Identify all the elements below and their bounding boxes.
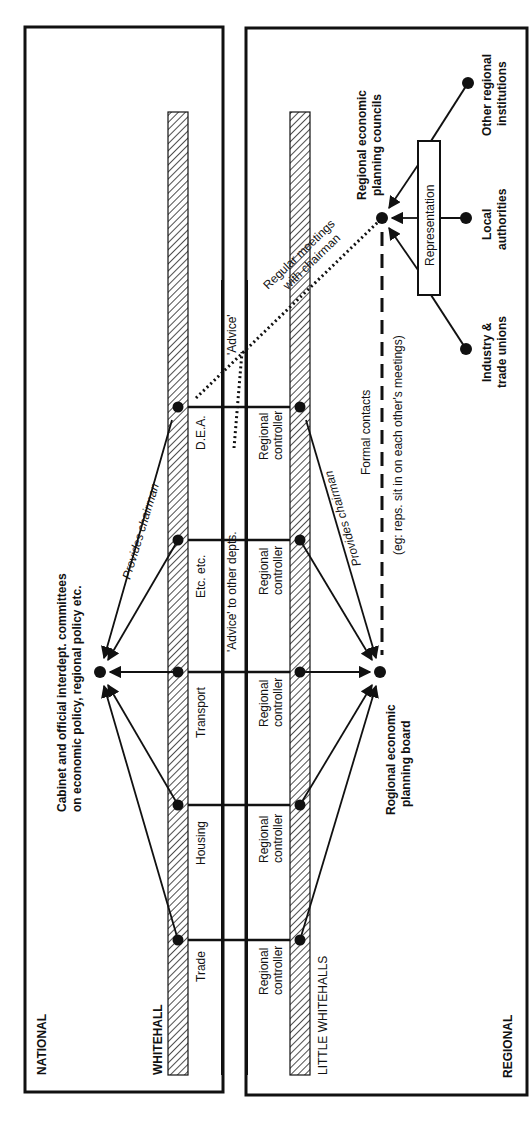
board-node	[374, 666, 386, 678]
little-whitehalls-label: LITTLE WHITEHALLS	[316, 956, 330, 1075]
councils-node	[376, 212, 388, 224]
board-label: Rogional economic planning board	[384, 704, 413, 815]
svg-text:trade unions: trade unions	[495, 316, 509, 388]
cabinet-label: Cabinet and official interdept. committe…	[55, 573, 84, 812]
svg-text:Regional: Regional	[257, 413, 271, 460]
dept-label-transport: Transport	[194, 686, 208, 738]
svg-text:Formal contacts: Formal contacts	[359, 390, 373, 475]
svg-text:controller: controller	[271, 814, 285, 863]
svg-text:planning councils: planning councils	[370, 94, 384, 196]
local-authorities-node	[460, 212, 472, 224]
svg-text:Regional: Regional	[257, 948, 271, 995]
dept-label-dea: D.E.A.	[194, 415, 208, 450]
svg-text:Regional: Regional	[257, 680, 271, 727]
dept-to-cabinet-arrows	[104, 420, 178, 940]
svg-text:Regional economic: Regional economic	[355, 90, 369, 200]
industry-label: Industry & trade unions	[480, 316, 509, 388]
cabinet-node	[94, 666, 106, 678]
local-authorities-label: Local authorities	[480, 188, 509, 250]
formal-contacts-detail: (eg: reps. sit in on each other's meetin…	[391, 335, 405, 555]
controller-labels: Regionalcontroller Regionalcontroller Re…	[257, 411, 285, 995]
provides-chairman-bottom-label: Provides chairman	[321, 469, 364, 568]
dept-label-etc: Etc. etc.	[194, 555, 208, 598]
svg-text:Rogional economic: Rogional economic	[384, 704, 398, 815]
svg-text:planning board: planning board	[399, 720, 413, 807]
councils-label: Regional economic planning councils	[355, 90, 384, 200]
whitehall-label: WHITEHALL	[151, 1004, 165, 1075]
svg-text:Regional: Regional	[257, 816, 271, 863]
svg-text:controller: controller	[271, 946, 285, 995]
svg-text:Local: Local	[480, 209, 494, 240]
industry-node	[460, 343, 472, 355]
svg-text:on economic policy, regional p: on economic policy, regional policy etc.	[70, 586, 84, 813]
dept-label-trade: Trade	[194, 951, 208, 982]
svg-text:institutions: institutions	[495, 61, 509, 126]
regional-zone-box	[246, 28, 527, 1095]
provides-chairman-top-label: Provides chairman	[119, 481, 162, 580]
regional-label: REGIONAL	[501, 1015, 515, 1078]
other-institutions-label: Other regional institutions	[480, 54, 509, 136]
svg-text:Regional: Regional	[257, 548, 271, 595]
advice-dotted-line	[234, 352, 242, 448]
national-label: NATIONAL	[35, 1014, 49, 1075]
svg-text:controller: controller	[271, 546, 285, 595]
svg-text:Other regional: Other regional	[480, 54, 494, 136]
representation-label: Representation	[423, 185, 437, 266]
whitehall-bar	[168, 112, 188, 1075]
svg-text:Cabinet and official interdept: Cabinet and official interdept. committe…	[55, 573, 69, 812]
node-dea	[173, 402, 184, 413]
svg-text:(eg: reps. sit in on each othe: (eg: reps. sit in on each other's meetin…	[391, 335, 405, 555]
diagram-canvas: NATIONAL REGIONAL WHITEHALL LITTLE WHITE…	[0, 0, 532, 1139]
dept-label-housing: Housing	[194, 821, 208, 865]
other-institutions-node	[462, 77, 474, 89]
svg-text:Industry &: Industry &	[480, 322, 494, 382]
formal-contacts-label: Formal contacts	[359, 390, 373, 475]
representation-arrows	[389, 165, 418, 270]
advice-label: 'Advice'	[225, 314, 239, 355]
advice-other-depts-label: 'Advice' to other depts.	[225, 531, 239, 652]
svg-text:controller: controller	[271, 678, 285, 727]
svg-text:authorities: authorities	[495, 188, 509, 250]
svg-text:controller: controller	[271, 411, 285, 460]
